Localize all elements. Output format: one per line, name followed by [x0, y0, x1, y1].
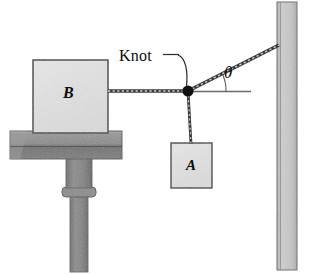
cord-knot-to-block-a — [188, 91, 191, 144]
cord-knot-to-wall — [188, 45, 279, 91]
theta-angle-label: θ — [224, 64, 232, 81]
physics-diagram: Knot θ B A — [0, 0, 312, 275]
knot-leader-line — [163, 55, 187, 87]
block-b-label: B — [63, 85, 74, 101]
knot-point — [182, 85, 193, 96]
knot-label: Knot — [119, 48, 152, 64]
table-pedestal — [10, 131, 122, 272]
diagram-canvas — [0, 0, 312, 275]
block-a-label: A — [186, 158, 196, 173]
wall — [277, 2, 297, 270]
